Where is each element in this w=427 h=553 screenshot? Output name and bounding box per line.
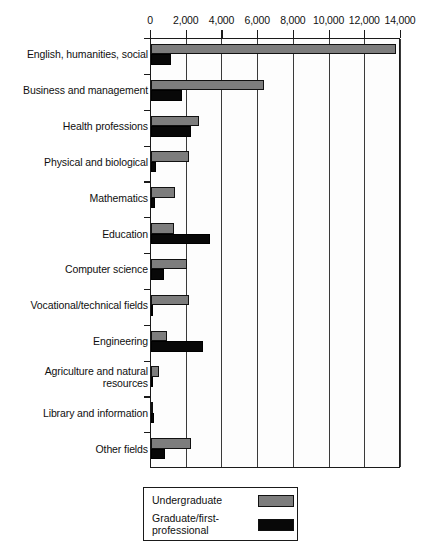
undergraduate-bar (151, 151, 189, 162)
category-label: Agriculture and naturalresources (0, 366, 148, 389)
category-tick (144, 253, 151, 254)
category-tick (144, 74, 151, 75)
category-tick (144, 217, 151, 218)
chart-row: Library and information (0, 396, 427, 432)
undergraduate-bar (151, 116, 199, 127)
legend-label-undergraduate: Undergraduate (152, 495, 222, 507)
chart-row: Computer science (0, 253, 427, 289)
category-tick (144, 38, 151, 39)
x-tick-label-10000: 10,000 (313, 14, 344, 26)
undergraduate-bar (151, 295, 189, 306)
x-tick-8000 (293, 30, 294, 38)
category-rows: English, humanities, socialBusiness and … (0, 38, 427, 468)
undergraduate-bar (151, 438, 191, 449)
undergraduate-swatch (258, 495, 294, 507)
category-label: Engineering (0, 336, 148, 348)
graduate-bar (151, 162, 156, 173)
category-tick (144, 432, 151, 433)
category-label: Education (0, 229, 148, 241)
graduate-bar (151, 413, 154, 424)
category-tick (144, 325, 151, 326)
graduate-swatch (258, 519, 294, 531)
undergraduate-bar (151, 44, 396, 55)
graduate-bar (151, 341, 203, 352)
chart-row: Physical and biological (0, 146, 427, 182)
category-label: Health professions (0, 121, 148, 133)
x-axis-ticks (150, 30, 400, 38)
undergraduate-bar (151, 331, 167, 342)
undergraduate-bar (151, 187, 175, 198)
bar-chart: 02,0004,0006,0008,00010,00012,00014,000 … (0, 0, 427, 553)
graduate-bar (151, 90, 182, 101)
x-tick-4000 (221, 30, 222, 38)
category-label: Computer science (0, 264, 148, 276)
x-tick-label-4000: 4,000 (209, 14, 234, 26)
category-label: Mathematics (0, 193, 148, 205)
chart-row: English, humanities, social (0, 38, 427, 74)
x-tick-6000 (257, 30, 258, 38)
x-tick-12000 (364, 30, 365, 38)
undergraduate-bar (151, 402, 153, 413)
category-tick (144, 110, 151, 111)
graduate-bar (151, 54, 171, 65)
category-tick (144, 361, 151, 362)
x-tick-14000 (400, 30, 401, 38)
chart-row: Business and management (0, 74, 427, 110)
x-axis-tick-labels: 02,0004,0006,0008,00010,00012,00014,000 (0, 14, 427, 28)
category-tick (144, 396, 151, 397)
chart-row: Engineering (0, 325, 427, 361)
category-tick (144, 146, 151, 147)
category-label: Physical and biological (0, 157, 148, 169)
x-tick-0 (150, 30, 151, 38)
graduate-bar (151, 377, 153, 388)
category-label: Business and management (0, 85, 148, 97)
chart-row: Education (0, 217, 427, 253)
x-tick-10000 (329, 30, 330, 38)
x-tick-label-0: 0 (147, 14, 153, 26)
x-tick-label-8000: 8,000 (280, 14, 305, 26)
undergraduate-bar (151, 80, 264, 91)
x-tick-2000 (186, 30, 187, 38)
graduate-bar (151, 234, 210, 245)
category-label: Other fields (0, 444, 148, 456)
undergraduate-bar (151, 259, 187, 270)
undergraduate-bar (151, 223, 174, 234)
undergraduate-bar (151, 366, 159, 377)
x-tick-label-12000: 12,000 (349, 14, 380, 26)
chart-row: Agriculture and naturalresources (0, 361, 427, 397)
category-label: Vocational/technical fields (0, 300, 148, 312)
graduate-bar (151, 198, 155, 209)
category-label: English, humanities, social (0, 49, 148, 61)
category-tick (144, 289, 151, 290)
category-tick (144, 181, 151, 182)
chart-row: Mathematics (0, 181, 427, 217)
x-tick-label-2000: 2,000 (173, 14, 198, 26)
graduate-bar (151, 449, 165, 460)
category-label: Library and information (0, 408, 148, 420)
x-tick-label-14000: 14,000 (385, 14, 416, 26)
chart-legend: Undergraduate Graduate/first-professiona… (143, 487, 298, 541)
chart-row: Other fields (0, 432, 427, 468)
graduate-bar (151, 269, 164, 280)
graduate-bar (151, 305, 153, 316)
x-tick-label-6000: 6,000 (245, 14, 270, 26)
graduate-bar (151, 126, 191, 137)
legend-label-graduate: Graduate/first-professional (152, 513, 219, 536)
chart-row: Vocational/technical fields (0, 289, 427, 325)
chart-row: Health professions (0, 110, 427, 146)
